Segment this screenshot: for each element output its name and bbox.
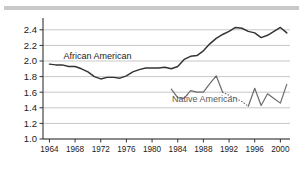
x-tick-label: 1988: [194, 145, 213, 154]
x-tick-label: 1980: [143, 145, 162, 154]
y-tick-label: 2.2: [24, 40, 37, 51]
x-tick-label: 1996: [246, 145, 265, 154]
y-tick-label: 1.8: [24, 71, 37, 82]
y-tick-label: 1.2: [24, 118, 37, 129]
chart-figure: 1.01.21.41.61.82.02.22.4 196419681972197…: [0, 0, 303, 176]
x-tick-label: 1992: [220, 145, 239, 154]
gridlines: [43, 30, 290, 139]
x-tick-label: 1984: [169, 145, 188, 154]
series-label-african-american: African American: [64, 51, 132, 61]
x-axis-ticks: 1964196819721976198019841988199219962000: [40, 139, 290, 154]
y-tick-label: 1.4: [24, 102, 37, 113]
line-chart: 1.01.21.41.61.82.02.22.4 196419681972197…: [0, 0, 303, 176]
series-label-native-american: Native American: [172, 94, 238, 104]
y-axis-ticks: 1.01.21.41.61.82.02.22.4: [24, 24, 43, 144]
x-tick-label: 1972: [92, 145, 111, 154]
x-tick-label: 1964: [40, 145, 59, 154]
x-tick-label: 2000: [271, 145, 290, 154]
y-tick-label: 1.0: [24, 133, 37, 144]
y-tick-label: 2.4: [24, 24, 37, 35]
x-tick-label: 1968: [66, 145, 85, 154]
series-annotations: African AmericanNative American: [64, 51, 238, 105]
series-line-native-american: [248, 84, 286, 106]
x-tick-label: 1976: [117, 145, 136, 154]
y-tick-label: 2.0: [24, 55, 37, 66]
chart-canvas: 1.01.21.41.61.82.02.22.4 196419681972197…: [0, 0, 303, 176]
data-series-layer: [49, 27, 286, 106]
y-tick-label: 1.6: [24, 87, 37, 98]
